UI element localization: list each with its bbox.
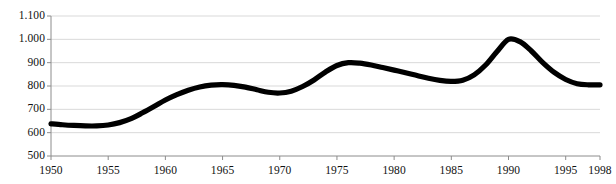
y-axis-label-1.000: 1.000 [0,33,45,45]
x-axis-ticks-group [51,156,600,160]
x-axis-label-1965: 1965 [200,165,246,177]
x-axis-label-1955: 1955 [85,165,131,177]
y-axis-label-700: 700 [0,103,45,115]
x-axis-label-1950: 1950 [28,165,74,177]
x-axis-label-1975: 1975 [314,165,360,177]
data-series-line [51,39,600,126]
x-axis-label-1998: 1998 [577,165,616,177]
y-axis-label-1.100: 1.100 [0,10,45,22]
gridlines-group [51,16,600,156]
y-axis-label-600: 600 [0,127,45,139]
x-axis-label-1985: 1985 [428,165,474,177]
y-axis-label-500: 500 [0,150,45,162]
y-axis-label-900: 900 [0,57,45,69]
x-axis-label-1980: 1980 [371,165,417,177]
x-axis-label-1970: 1970 [257,165,303,177]
y-axis-label-800: 800 [0,80,45,92]
y-axis-ticks-group [47,16,51,156]
x-axis-label-1990: 1990 [486,165,532,177]
x-axis-label-1960: 1960 [142,165,188,177]
